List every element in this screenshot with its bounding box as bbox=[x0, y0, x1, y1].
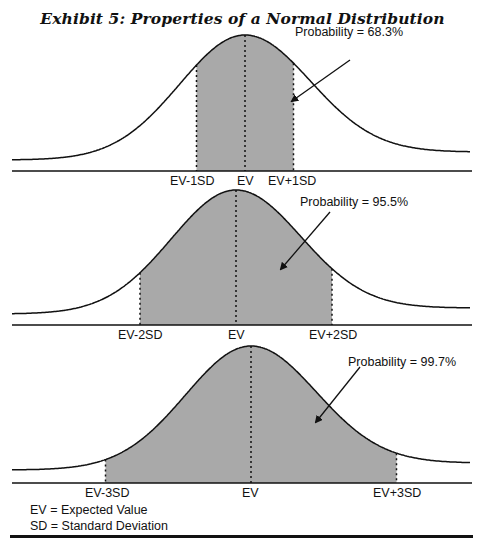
legend-ev: EV = Expected Value bbox=[30, 503, 148, 517]
tick-label-ev-plus-3sd: EV+3SD bbox=[373, 486, 421, 500]
panel-1sd bbox=[12, 35, 472, 171]
tick-label-ev-minus-2sd: EV-2SD bbox=[118, 328, 162, 342]
normal-distribution-figure bbox=[0, 0, 485, 548]
tick-label-ev-minus-1sd: EV-1SD bbox=[170, 174, 214, 188]
tick-label-ev-1: EV bbox=[237, 174, 254, 188]
bottom-rule bbox=[10, 535, 473, 538]
arrow-icon bbox=[292, 60, 350, 101]
legend-sd: SD = Standard Deviation bbox=[30, 519, 168, 533]
tick-label-ev-plus-2sd: EV+2SD bbox=[309, 328, 357, 342]
probability-label-1sd: Probability = 68.3% bbox=[295, 25, 403, 39]
tick-label-ev-plus-1sd: EV+1SD bbox=[268, 174, 316, 188]
tick-label-ev-minus-3sd: EV-3SD bbox=[85, 486, 129, 500]
probability-label-3sd: Probability = 99.7% bbox=[348, 355, 456, 369]
tick-label-ev-3: EV bbox=[242, 486, 259, 500]
tick-label-ev-2: EV bbox=[228, 328, 245, 342]
panel-2sd bbox=[12, 190, 472, 325]
probability-label-2sd: Probability = 95.5% bbox=[300, 195, 408, 209]
